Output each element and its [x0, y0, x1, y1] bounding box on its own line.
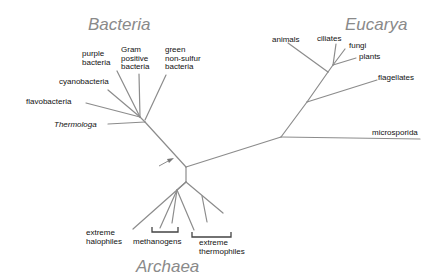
leaf-label-flavobacteria: flavobacteria: [26, 98, 71, 107]
branch-flagellates: [307, 80, 377, 102]
leaf-label-microsporida: microsporida: [372, 129, 418, 138]
leaf-label-purple-bacteria: purple bacteria: [82, 50, 110, 67]
leaf-label-green-nonsulfur: green non-sulfur bacteria: [165, 46, 201, 72]
domain-label-archaea: Archaea: [136, 257, 199, 275]
leaf-label-animals: animals: [272, 36, 300, 45]
leaf-label-gram-positive: Gram positive bacteria: [121, 46, 149, 72]
leaf-label-thermotoga: Thermologa: [54, 121, 97, 130]
leaf-label-plants: plants: [359, 53, 380, 62]
branch-thermophile-1: [177, 190, 194, 230]
branch-plants: [333, 58, 356, 65]
branch-eucarya-upper: [307, 72, 328, 102]
branch-center-eucarya: [186, 137, 281, 167]
phylogenetic-tree: [0, 0, 440, 275]
branch-archaea-left: [177, 182, 186, 190]
branch-purple-bacteria: [117, 71, 140, 117]
branch-center-bacteria: [145, 122, 186, 167]
leaf-label-ciliates: ciliates: [317, 35, 341, 44]
branch-green-nonsulfur: [145, 75, 166, 120]
arrow-icon: [159, 158, 174, 166]
branch-crown: [328, 65, 333, 72]
leaf-label-methanogens: methanogens: [133, 238, 181, 247]
branch-animals: [288, 43, 328, 72]
leaf-label-flagellates: flagellates: [378, 74, 414, 83]
domain-label-bacteria: Bacteria: [88, 15, 150, 35]
domain-label-eucarya: Eucarya: [345, 15, 407, 35]
thermophiles-bracket: [192, 232, 231, 237]
methanogens-bracket: [152, 227, 178, 232]
leaf-label-extreme-halophiles: extreme halophiles: [86, 229, 122, 246]
branch-thermophile-2: [202, 196, 207, 222]
leaf-label-cyanobacteria: cyanobacteria: [59, 78, 109, 87]
leaf-label-extreme-thermophiles: extreme thermophiles: [199, 239, 245, 256]
branch-thermotoga: [108, 122, 145, 124]
branch-eucarya-trunk: [281, 102, 307, 137]
branch-gram-positive: [139, 74, 140, 117]
leaf-label-fungi: fungi: [349, 42, 366, 51]
branch-bacteria-inner: [140, 117, 145, 122]
